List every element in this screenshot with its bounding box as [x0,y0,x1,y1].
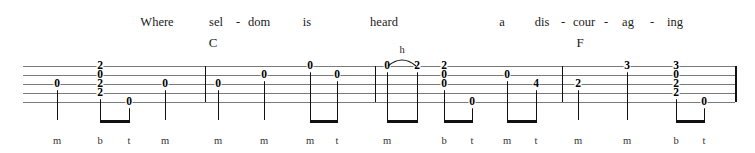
lyric-syllable: is [303,16,311,29]
fret-number: 0 [162,78,169,90]
fret-number: 0 [701,96,708,108]
lyric-syllable: ing [667,16,683,29]
lyric-syllable: cour [573,16,595,29]
hammer-on-label: h [399,45,404,56]
chord-symbol: C [209,36,218,49]
fingering-letter: m [503,136,511,147]
fingering-letter: m [214,136,222,147]
note-beam [100,120,130,123]
fret-number: 0 [215,78,222,90]
lyric-syllable: ag [622,16,634,29]
measure-barline [375,66,376,102]
fret-number: 0 [334,69,341,81]
fingering-letter: m [623,136,631,147]
note-beam [676,120,705,123]
fingering-letter: m [53,136,61,147]
fret-number: 3 [624,60,631,72]
end-barline [735,66,737,102]
fret-number: 4 [533,78,540,90]
fingering-letter: b [441,136,446,147]
tablature-sheet: Whereseldomisheardadiscouraging ---- CF … [0,0,755,153]
note-stem [310,66,311,120]
fret-number: 0 [441,78,448,90]
fingering-letter: b [97,136,102,147]
fret-number: 0 [469,96,476,108]
fingering-letter: m [161,136,169,147]
note-stem [387,66,388,120]
lyric-hyphen: - [561,16,565,29]
note-stem [264,75,265,120]
note-stem [507,75,508,120]
fingering-letter: t [128,136,131,147]
note-beam [444,120,473,123]
lyric-syllable: sel [209,16,223,29]
note-beam [310,120,338,123]
lyric-hyphen: - [604,16,608,29]
lyric-hyphen: - [650,16,654,29]
fret-number: 0 [54,78,61,90]
note-stem [337,75,338,120]
fingering-letter: t [471,136,474,147]
fingering-letter: m [383,136,391,147]
fingering-letter: t [535,136,538,147]
lyric-syllable: heard [370,16,398,29]
lyric-syllable: dom [248,16,270,29]
lyric-syllable: a [499,16,505,29]
lyric-syllable: Where [140,16,173,29]
fingering-letter: m [260,136,268,147]
fingering-letter: t [703,136,706,147]
fret-number: 2 [575,78,582,90]
tab-staff-line [23,75,735,76]
fingering-letter: m [306,136,314,147]
chord-symbol: F [576,36,583,49]
fret-number: 2 [97,87,104,99]
fret-number: 0 [126,96,133,108]
fingering-letter: t [336,136,339,147]
fret-number: 0 [261,69,268,81]
fingering-letter: b [673,136,678,147]
measure-barline [205,66,206,102]
measure-barline [562,66,563,102]
lyric-syllable: dis [535,16,550,29]
note-beam [387,120,418,123]
fret-number: 0 [307,60,314,72]
tab-staff-line [23,84,735,85]
tab-staff-line [23,93,735,94]
lyric-hyphen: - [236,16,240,29]
fret-number: 2 [673,87,680,99]
note-stem [417,66,418,120]
fingering-letter: m [574,136,582,147]
note-beam [507,120,537,123]
fret-number: 0 [504,69,511,81]
note-stem [627,66,628,120]
